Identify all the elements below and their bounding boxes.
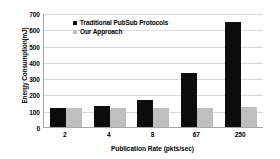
y-axis-tick-label: 400 — [22, 59, 40, 66]
x-axis-tick-labels: 24867250 — [43, 131, 262, 138]
y-axis-tick-label: 600 — [22, 27, 40, 34]
legend-label: Traditional PubSub Protocols — [80, 19, 168, 26]
y-axis-tick-label: 700 — [22, 11, 40, 18]
bar — [225, 22, 241, 128]
bar — [50, 108, 66, 128]
y-axis-tick-label: 100 — [22, 108, 40, 115]
chart-legend: Traditional PubSub ProtocolsOur Approach — [73, 18, 168, 36]
y-axis-tick-label: 200 — [22, 92, 40, 99]
bar — [94, 106, 110, 128]
x-axis-tick-label: 2 — [43, 131, 87, 138]
bar — [153, 108, 169, 128]
bar-group — [175, 14, 219, 128]
bar — [137, 100, 153, 128]
legend-label: Our Approach — [80, 28, 122, 35]
y-axis-tick-label: 500 — [22, 43, 40, 50]
legend-swatch-icon — [73, 30, 77, 34]
x-axis-tick-label: 250 — [218, 131, 262, 138]
legend-entry: Our Approach — [73, 27, 168, 36]
legend-swatch-icon — [73, 21, 77, 25]
bar — [110, 108, 126, 128]
x-axis-tick-label: 4 — [87, 131, 131, 138]
bar — [197, 108, 213, 128]
legend-entry: Traditional PubSub Protocols — [73, 18, 168, 27]
y-axis-tick-label: 300 — [22, 76, 40, 83]
x-axis-tick-label: 67 — [174, 131, 218, 138]
y-axis-tick-label: 0 — [22, 125, 40, 132]
x-axis-tick-label: 8 — [131, 131, 175, 138]
x-axis-baseline — [44, 127, 263, 128]
y-axis-tick-labels: 0100200300400500600700 — [22, 14, 40, 128]
bar — [181, 73, 197, 128]
x-axis-title: Publication Rate (pkts/sec) — [43, 145, 262, 152]
bar — [66, 108, 82, 128]
bar-group — [219, 14, 263, 128]
energy-consumption-bar-chart: Energy Consumption(mJ) 01002003004005006… — [0, 0, 280, 159]
bar — [241, 107, 257, 128]
